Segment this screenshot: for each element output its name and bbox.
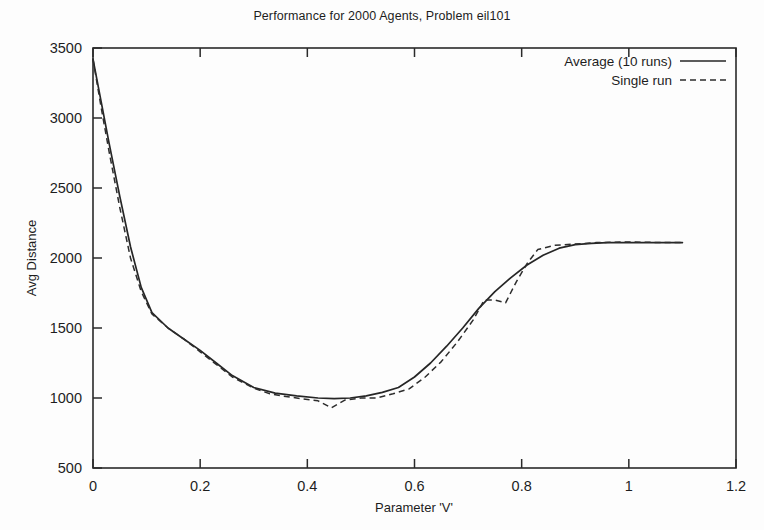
x-axis-tick-labels: 00.20.40.60.811.2 bbox=[89, 478, 746, 494]
legend-label-average: Average (10 runs) bbox=[564, 54, 672, 69]
y-tick-label-3000: 3000 bbox=[50, 110, 82, 126]
x-axis-ticks bbox=[93, 48, 736, 468]
x-axis-title: Parameter 'V' bbox=[375, 500, 453, 515]
x-tick-label-0: 0 bbox=[89, 478, 97, 494]
x-tick-label-0.8: 0.8 bbox=[512, 478, 532, 494]
legend-label-single-run: Single run bbox=[611, 73, 672, 88]
y-tick-label-1500: 1500 bbox=[50, 320, 82, 336]
y-axis-ticks bbox=[93, 48, 102, 468]
y-tick-label-500: 500 bbox=[58, 460, 82, 476]
x-tick-label-0.4: 0.4 bbox=[297, 478, 317, 494]
x-tick-label-0.2: 0.2 bbox=[190, 478, 210, 494]
y-tick-label-1000: 1000 bbox=[50, 390, 82, 406]
y-axis-title: Avg Distance bbox=[24, 220, 39, 296]
plot-frame bbox=[93, 48, 736, 468]
series-line-single-run bbox=[93, 59, 682, 408]
y-tick-label-3500: 3500 bbox=[50, 40, 82, 56]
legend: Average (10 runs) Single run bbox=[564, 54, 726, 88]
series-line-average bbox=[93, 59, 682, 399]
y-tick-label-2500: 2500 bbox=[50, 180, 82, 196]
y-tick-label-2000: 2000 bbox=[50, 250, 82, 266]
plot-area: 500100015002000250030003500 00.20.40.60.… bbox=[0, 0, 764, 530]
x-tick-label-0.6: 0.6 bbox=[404, 478, 424, 494]
chart-figure: Performance for 2000 Agents, Problem eil… bbox=[0, 0, 764, 530]
x-tick-label-1.2: 1.2 bbox=[726, 478, 746, 494]
y-axis-tick-labels: 500100015002000250030003500 bbox=[50, 40, 82, 476]
x-tick-label-1: 1 bbox=[625, 478, 633, 494]
